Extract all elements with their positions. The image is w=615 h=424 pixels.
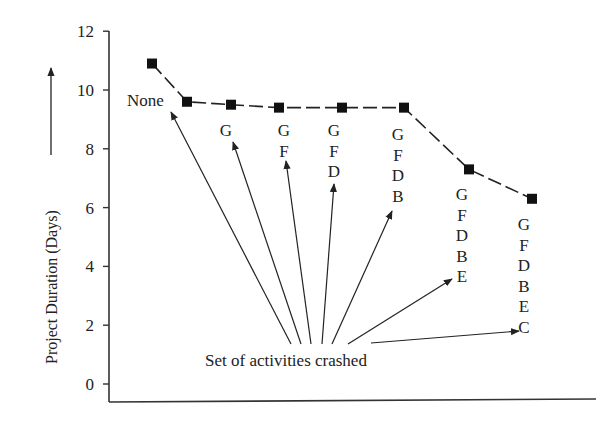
activity-letter: G [278,121,290,140]
arrow-to-gfdb [332,211,392,344]
activity-letter: F [457,206,466,225]
annotation-text: Set of activities crashed [205,351,367,370]
project-duration-chart: 024681012 Project Duration (Days) None G… [0,0,615,424]
crashed-activity-labels: GGFGFDGFDBGFDBEGFDBEC [220,121,530,337]
arrow-to-none [171,112,291,344]
arrow-to-gfdbe [348,279,452,344]
activity-letter: E [457,267,467,286]
y-axis: 024681012 [77,22,109,402]
arrow-to-g [233,142,301,344]
activity-letter: G [518,215,530,234]
activity-letter: F [519,236,528,255]
x-axis [109,399,596,402]
y-tick-label: 8 [86,140,95,159]
data-point-marker [399,103,409,113]
activity-letter: G [456,185,468,204]
y-tick-label: 10 [77,81,94,100]
y-tick-label: 0 [86,375,95,394]
activity-letter: B [456,247,467,266]
activity-letter: F [393,146,402,165]
activity-letter: D [328,162,340,181]
y-tick-label: 12 [77,22,94,41]
data-point-marker [527,194,537,204]
activity-letter: G [328,121,340,140]
data-point-marker [182,97,192,107]
label-none: None [127,91,164,110]
y-axis-label-group: Project Duration (Days) [43,68,61,364]
arrow-to-gfd [322,184,334,344]
y-tick-label: 6 [86,199,95,218]
y-ticks: 024681012 [77,22,109,394]
data-point-marker [274,103,284,113]
activity-letter: D [392,166,404,185]
arrow-to-gf [286,161,311,344]
activity-letter: D [518,256,530,275]
activity-letter: B [518,277,529,296]
activity-letter: G [392,125,404,144]
activity-letter: E [519,297,529,316]
duration-series [147,59,537,204]
y-axis-label: Project Duration (Days) [43,210,61,364]
activity-letter: D [456,226,468,245]
activity-letter: F [329,142,338,161]
arrow-to-gfdbec [371,331,519,343]
data-point-marker [147,59,157,69]
y-tick-label: 2 [86,316,95,335]
data-point-marker [226,100,236,110]
activity-letter: G [220,121,232,140]
activity-letter: C [518,318,529,337]
activity-letter: F [279,142,288,161]
activity-letter: B [392,187,403,206]
data-point-marker [337,103,347,113]
y-tick-label: 4 [86,257,95,276]
data-point-marker [464,164,474,174]
